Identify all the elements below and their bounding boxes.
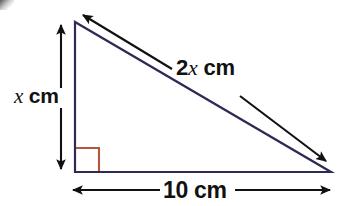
geometry-figure: x cm 2x cm 10 cm xyxy=(0,0,343,206)
label-base-value: 10 xyxy=(163,177,188,203)
label-vertical-unit: cm xyxy=(29,84,59,107)
label-vertical-side: x cm xyxy=(14,85,59,107)
label-hypotenuse-coefficient: 2 xyxy=(176,55,188,80)
label-base: 10 cm xyxy=(163,179,227,202)
triangle-shape xyxy=(75,22,331,172)
label-hypotenuse-variable: x xyxy=(188,55,198,80)
label-hypotenuse: 2x cm xyxy=(176,57,235,79)
label-hypotenuse-unit: cm xyxy=(204,55,235,80)
dimension-line-hypotenuse xyxy=(83,15,326,161)
label-base-unit: cm xyxy=(194,177,227,203)
right-angle-marker xyxy=(76,148,99,171)
label-vertical-variable: x xyxy=(14,84,23,108)
hypotenuse-dimension-upper-segment xyxy=(83,15,172,69)
right-angle-square xyxy=(76,148,99,171)
triangle-outline xyxy=(75,22,331,172)
hypotenuse-dimension-lower-segment xyxy=(240,96,326,161)
